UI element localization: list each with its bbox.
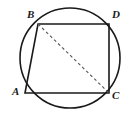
vertex-label-C: C (112, 90, 119, 101)
vertex-label-B: B (27, 9, 34, 20)
geometry-figure: A B C D (0, 0, 136, 116)
vertex-label-A: A (12, 86, 19, 97)
diagonal-BC-dashed (38, 24, 109, 93)
quadrilateral-ABDC (25, 24, 109, 93)
vertex-label-D: D (112, 9, 120, 20)
